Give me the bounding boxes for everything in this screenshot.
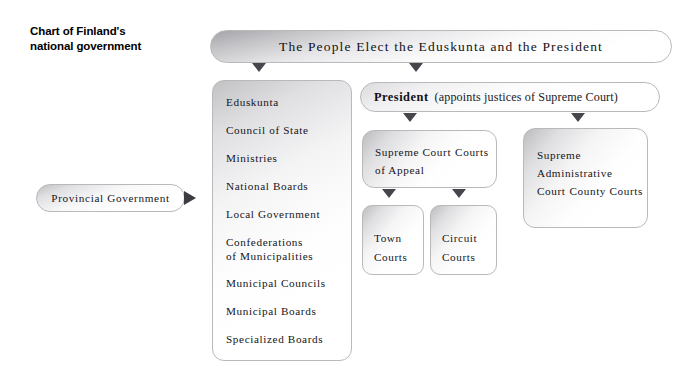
arrow-down-icon-supreme-to-circuit-courts <box>452 189 466 198</box>
node-circuit-courts-label: Circuit Courts <box>442 232 477 263</box>
arrow-right-icon-provincial-to-column <box>184 191 196 205</box>
list-item: National Boards <box>226 179 351 193</box>
government-chart-canvas: Chart of Finland's national government T… <box>0 0 680 388</box>
list-item: Eduskunta <box>226 95 351 109</box>
node-town-courts-label: Town Courts <box>374 232 407 263</box>
node-legislative-column[interactable]: Eduskunta Council of State Ministries Na… <box>212 80 352 361</box>
list-item: Municipal Boards <box>226 304 351 318</box>
node-president-note: (appoints justices of Supreme Court) <box>435 90 618 105</box>
node-provincial-government[interactable]: Provincial Government <box>36 184 185 212</box>
node-people-elect-banner[interactable]: The People Elect the Eduskunta and the P… <box>210 30 672 63</box>
node-administrative-court-line2: County Courts <box>569 185 642 197</box>
node-people-elect-label: The People Elect the Eduskunta and the P… <box>279 39 603 55</box>
list-item: Ministries <box>226 151 351 165</box>
node-town-courts[interactable]: Town Courts <box>362 205 424 275</box>
arrow-down-icon-supreme-to-town-courts <box>382 189 396 198</box>
arrow-down-icon-president-to-administrative-court <box>571 113 585 122</box>
list-item: Local Government <box>226 207 351 221</box>
node-supreme-court[interactable]: Supreme Court Courts of Appeal <box>362 130 497 188</box>
arrow-down-icon-people-to-eduskunta <box>252 63 266 72</box>
list-item: Municipal Councils <box>226 276 351 290</box>
node-president-label: President <box>374 90 429 105</box>
arrow-down-icon-people-to-president <box>409 63 423 72</box>
list-item: Council of State <box>226 123 351 137</box>
legislative-list: Eduskunta Council of State Ministries Na… <box>226 95 351 346</box>
node-supreme-court-line1: Supreme Court <box>375 146 451 158</box>
node-circuit-courts[interactable]: Circuit Courts <box>430 205 497 275</box>
page-title: Chart of Finland's national government <box>30 24 200 54</box>
node-provincial-government-label: Provincial Government <box>51 192 169 204</box>
list-item: Specialized Boards <box>226 332 351 346</box>
node-supreme-administrative-court[interactable]: Supreme Administrative Court County Cour… <box>523 128 648 228</box>
list-item: Confederations of Municipalities <box>226 235 351 263</box>
node-president[interactable]: President (appoints justices of Supreme … <box>360 82 660 112</box>
arrow-down-icon-president-to-supreme-court <box>403 113 417 122</box>
